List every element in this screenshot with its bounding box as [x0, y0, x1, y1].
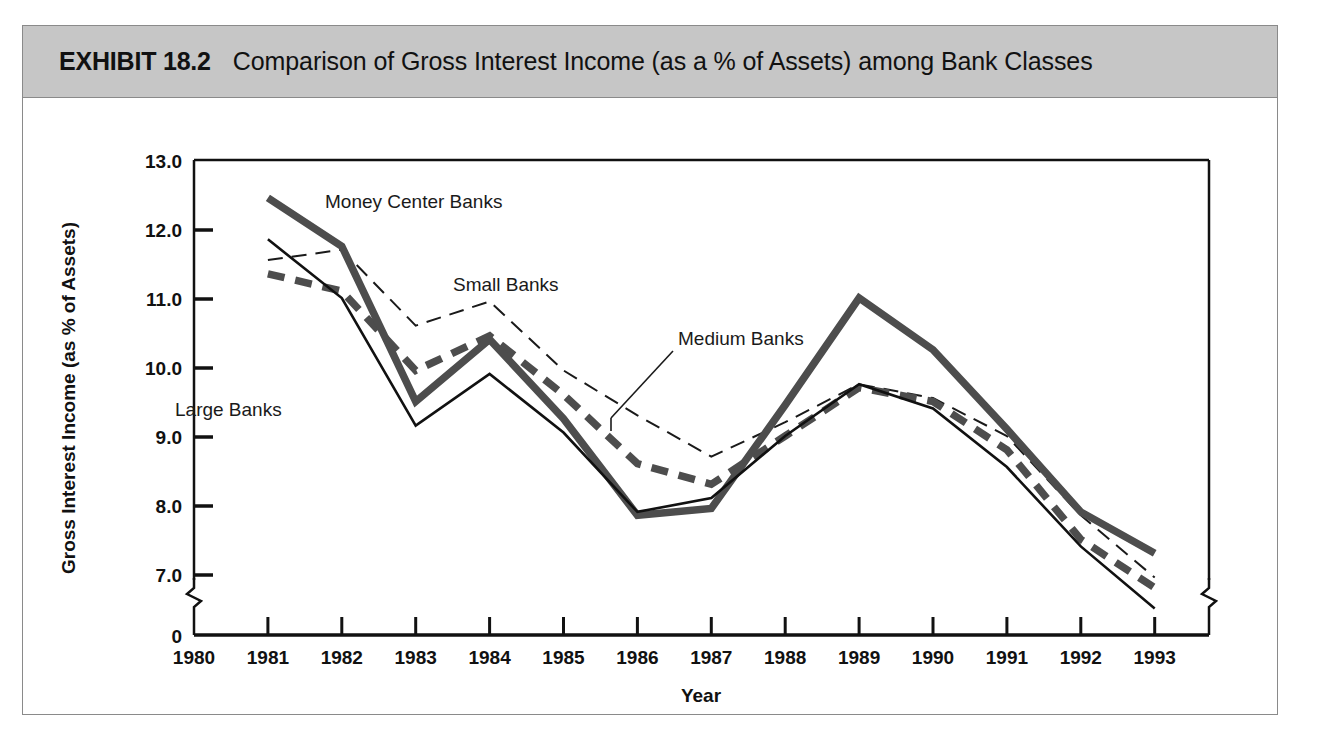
chart-series-group: [268, 198, 1155, 609]
ytick-label: 11.0: [146, 289, 182, 310]
xtick-label: 1989: [838, 647, 880, 668]
exhibit-frame: EXHIBIT 18.2 Comparison of Gross Interes…: [22, 25, 1278, 715]
xtick-label: 1987: [690, 647, 732, 668]
right-axis-break-marker: [1202, 578, 1216, 635]
exhibit-header: EXHIBIT 18.2 Comparison of Gross Interes…: [23, 26, 1277, 98]
x-axis-ticks: [268, 617, 1155, 635]
ytick-label: 13.0: [145, 151, 182, 172]
exhibit-title: Comparison of Gross Interest Income (as …: [233, 47, 1093, 76]
ytick-label: 10.0: [145, 358, 182, 379]
chart-axes: [187, 160, 1216, 635]
series-line-money-center-banks: [268, 198, 1155, 553]
series-annotations: Money Center Banks Small Banks Medium Ba…: [175, 191, 804, 420]
series-label-small-banks: Small Banks: [453, 274, 559, 295]
x-axis-title: Year: [681, 685, 722, 706]
series-label-large-banks: Large Banks: [175, 399, 282, 420]
xtick-label: 1981: [247, 647, 290, 668]
series-line-small-banks: [268, 250, 1155, 578]
medium-banks-leader-line: [611, 351, 673, 418]
annotation-leader-lines: [611, 351, 673, 431]
series-label-medium-banks: Medium Banks: [678, 328, 804, 349]
y-axis-title: Gross Interest Income (as % of Assets): [58, 222, 79, 574]
ytick-label-zero: 0: [171, 626, 182, 647]
ytick-label: 7.0: [156, 565, 182, 586]
ytick-label: 12.0: [145, 220, 182, 241]
xtick-label: 1990: [912, 647, 954, 668]
xtick-label: 1985: [542, 647, 585, 668]
series-line-large-banks: [268, 239, 1155, 608]
ytick-label: 9.0: [156, 427, 182, 448]
y-axis-break-marker: [187, 578, 201, 635]
xtick-label: 1991: [986, 647, 1029, 668]
chart-plot-area: 13.0 12.0 11.0 10.0 9.0 8.0 7.0 0 Gross …: [23, 98, 1277, 715]
xtick-label: 1983: [395, 647, 437, 668]
xtick-label: 1988: [764, 647, 806, 668]
xtick-label: 1986: [616, 647, 658, 668]
exhibit-number-label: EXHIBIT 18.2: [59, 47, 211, 76]
series-line-medium-banks: [268, 274, 1155, 588]
xtick-label: 1982: [321, 647, 363, 668]
ytick-label: 8.0: [156, 496, 182, 517]
series-label-money-center-banks: Money Center Banks: [325, 191, 502, 212]
xtick-label: 1993: [1134, 647, 1176, 668]
xtick-label: 1984: [468, 647, 511, 668]
xtick-label: 1980: [173, 647, 215, 668]
line-chart: 13.0 12.0 11.0 10.0 9.0 8.0 7.0 0 Gross …: [23, 98, 1277, 715]
xtick-label: 1992: [1060, 647, 1102, 668]
x-axis-tick-labels: 1980198119821983198419851986198719881989…: [173, 647, 1176, 668]
